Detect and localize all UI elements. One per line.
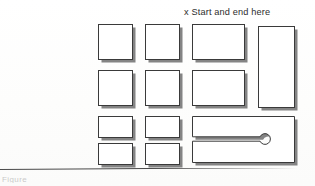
small-rect-r4c1 [98,143,133,165]
square-r1c2 [145,24,180,60]
square-r2c1 [98,70,133,106]
wide-rect-r2c3 [192,70,245,106]
footer-text-remnant: Figure [2,176,48,183]
slotted-plate [192,116,298,166]
tall-rect-r1c4 [258,26,295,108]
square-r1c1 [98,24,133,60]
square-r2c2 [145,70,180,106]
wide-rect-r1c3 [192,24,245,60]
figure-page: x Start and end here Figure [0,0,315,186]
shapes-layer [0,0,315,186]
small-rect-r4c2 [145,143,180,165]
small-rect-r3c2 [145,116,180,138]
divider-line [0,168,315,170]
bottom-divider [0,168,315,172]
small-rect-r3c1 [98,116,133,138]
